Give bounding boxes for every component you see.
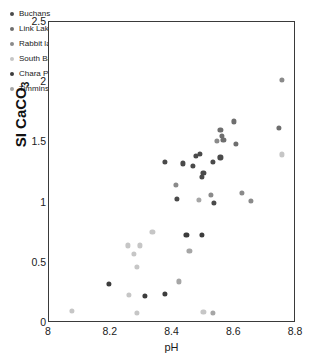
data-point: [190, 163, 195, 168]
data-point: [201, 310, 206, 315]
data-point: [210, 310, 215, 315]
data-point: [276, 125, 281, 130]
data-point: [215, 139, 220, 144]
data-point: [232, 119, 237, 124]
data-point: [280, 77, 285, 82]
plot-frame: [48, 21, 295, 322]
data-point: [212, 201, 217, 206]
data-point: [107, 281, 112, 286]
plot-area: [49, 22, 294, 321]
y-tick-label: 1: [0, 196, 46, 208]
data-point: [175, 196, 180, 201]
data-point: [239, 190, 244, 195]
y-tick-label: 2.5: [0, 15, 46, 27]
y-axis-label: SI CaCO3: [12, 50, 29, 180]
x-tick-label: 8: [28, 325, 68, 337]
data-point: [70, 308, 75, 313]
x-axis-label: pH: [48, 341, 295, 353]
data-point: [134, 264, 139, 269]
data-point: [181, 161, 186, 166]
data-point: [162, 291, 167, 296]
data-point: [233, 141, 238, 146]
data-point: [249, 198, 254, 203]
x-tick-label: 8.6: [213, 325, 253, 337]
data-point: [137, 243, 142, 248]
data-point: [150, 230, 155, 235]
data-point: [162, 160, 167, 165]
data-point: [218, 155, 223, 160]
data-point: [196, 198, 201, 203]
data-point: [176, 279, 181, 284]
data-point: [173, 183, 178, 188]
data-point: [131, 251, 136, 256]
data-point: [218, 127, 223, 132]
data-point: [125, 243, 130, 248]
y-tick-label: 2: [0, 75, 46, 87]
data-point: [210, 160, 215, 165]
data-point: [280, 152, 285, 157]
legend-marker-icon: [10, 27, 14, 31]
data-point: [209, 192, 214, 197]
data-point: [127, 292, 132, 297]
data-point: [198, 151, 203, 156]
x-tick-label: 8.2: [90, 325, 130, 337]
x-tick-label: 8.4: [152, 325, 192, 337]
scatter-chart-figure: BuchansLink LakeRabbit lakeSouth BayChar…: [0, 0, 314, 362]
y-tick-label: 0.5: [0, 256, 46, 268]
data-point: [199, 174, 204, 179]
data-point: [142, 293, 147, 298]
x-tick-label: 8.8: [275, 325, 314, 337]
data-point: [199, 232, 204, 237]
data-point: [187, 248, 192, 253]
data-point: [221, 137, 226, 142]
data-point: [184, 232, 189, 237]
y-tick-label: 1.5: [0, 135, 46, 147]
data-point: [134, 310, 139, 315]
legend-marker-icon: [10, 42, 14, 46]
data-point: [193, 153, 198, 158]
